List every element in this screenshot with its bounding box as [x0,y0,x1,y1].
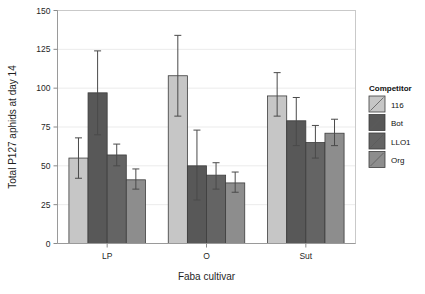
chart-background [0,0,425,294]
y-tick-label: 150 [36,6,50,16]
y-tick-label: 100 [36,83,50,93]
y-tick-label: 25 [41,200,51,210]
bar [268,96,287,244]
legend-item-label: 116 [391,101,404,110]
chart-figure: 0255075100125150Total P127 aphids at day… [0,0,425,294]
x-group-label: O [203,251,210,261]
bar [325,133,344,243]
legend-title: Competitor [369,84,412,93]
x-group-label: LP [102,251,113,261]
legend-item-label: Org [391,156,404,165]
bar [107,155,126,244]
y-tick-label: 0 [46,239,51,249]
bar-chart: 0255075100125150Total P127 aphids at day… [0,0,425,294]
y-tick-label: 125 [36,44,50,54]
y-tick-label: 75 [41,122,51,132]
x-group-label: Sut [299,251,312,261]
legend-item-label: LLO1 [391,138,411,147]
y-tick-label: 50 [41,161,51,171]
legend-item-label: Bot [391,119,404,128]
y-axis-label: Total P127 aphids at day 14 [7,65,18,189]
x-axis-label: Faba cultivar [178,271,236,282]
